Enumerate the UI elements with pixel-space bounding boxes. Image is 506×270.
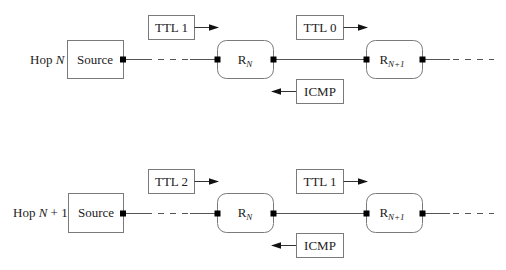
port-icon: [271, 211, 277, 217]
source-label: Source: [77, 52, 113, 67]
port-icon: [215, 211, 221, 217]
hop-label: Hop N: [30, 52, 66, 67]
port-icon: [420, 57, 426, 63]
icmp-reply-label: ICMP: [304, 238, 336, 253]
packet-ttl-label: TTL 1: [155, 20, 188, 35]
packet-ttl-label: TTL 2: [155, 174, 188, 189]
port-icon: [364, 211, 370, 217]
port-icon: [271, 57, 277, 63]
hop-row-2: Hop N + 1 Source RN RN+1 TTL 2 TTL 1 ICM…: [13, 170, 494, 258]
port-icon: [420, 211, 426, 217]
port-icon: [215, 57, 221, 63]
icmp-reply-label: ICMP: [304, 84, 336, 99]
port-icon: [120, 57, 126, 63]
packet-ttl-label: TTL 1: [303, 174, 336, 189]
traceroute-diagram: Hop N Source RN RN+1 TTL 1 TTL 0: [0, 0, 506, 270]
hop-label: Hop N + 1: [13, 205, 68, 220]
source-label: Source: [78, 205, 114, 220]
port-icon: [364, 57, 370, 63]
hop-row-1: Hop N Source RN RN+1 TTL 1 TTL 0: [30, 16, 494, 104]
port-icon: [120, 211, 126, 217]
packet-ttl-label: TTL 0: [303, 20, 336, 35]
